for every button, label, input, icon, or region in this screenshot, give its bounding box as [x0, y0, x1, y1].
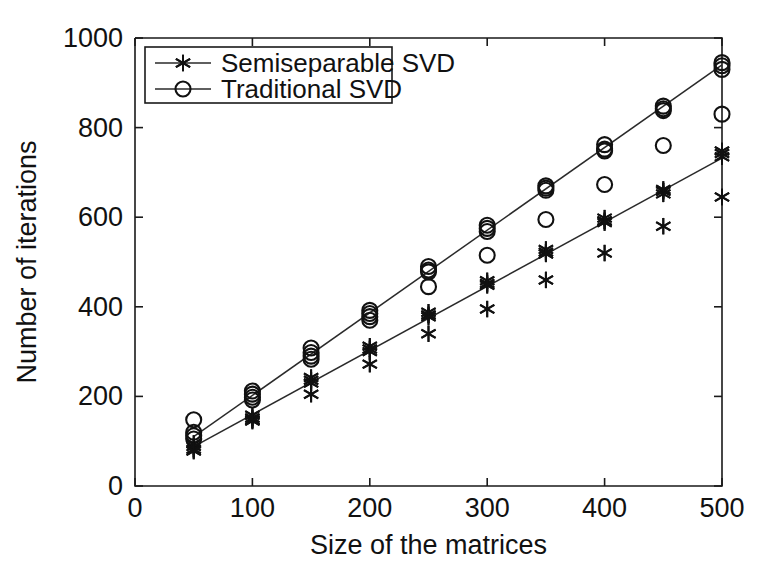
- circle-marker: [656, 138, 671, 153]
- x-axis-title: Size of the matrices: [310, 530, 547, 560]
- asterisk-marker: [598, 245, 612, 261]
- circle-marker: [480, 248, 495, 263]
- circle-marker: [597, 177, 612, 192]
- y-tick-label: 800: [78, 113, 123, 143]
- y-tick-label: 0: [108, 471, 123, 501]
- y-tick-label: 600: [78, 202, 123, 232]
- x-tick-label: 100: [230, 493, 275, 523]
- regression-line: [194, 65, 722, 437]
- asterisk-marker: [304, 386, 318, 402]
- y-tick-label: 1000: [63, 23, 123, 53]
- asterisk-marker: [715, 189, 729, 205]
- circle-marker: [421, 279, 436, 294]
- y-tick-label: 200: [78, 381, 123, 411]
- asterisk-marker: [656, 218, 670, 234]
- x-tick-label: 200: [347, 493, 392, 523]
- x-tick-label: 300: [465, 493, 510, 523]
- circle-marker: [538, 212, 553, 227]
- x-tick-label: 0: [127, 493, 142, 523]
- asterisk-marker: [539, 272, 553, 288]
- y-tick-label: 400: [78, 292, 123, 322]
- asterisk-marker: [363, 356, 377, 372]
- legend-entry-label: Traditional SVD: [221, 74, 402, 104]
- x-tick-label: 400: [582, 493, 627, 523]
- scatter-chart: 010020030040050002004006008001000Size of…: [0, 0, 783, 577]
- figure-container: 010020030040050002004006008001000Size of…: [0, 0, 783, 577]
- y-axis-title: Number of iterations: [12, 140, 42, 383]
- asterisk-marker: [480, 301, 494, 317]
- x-tick-label: 500: [699, 493, 744, 523]
- asterisk-marker: [421, 325, 435, 341]
- regression-line: [194, 158, 722, 447]
